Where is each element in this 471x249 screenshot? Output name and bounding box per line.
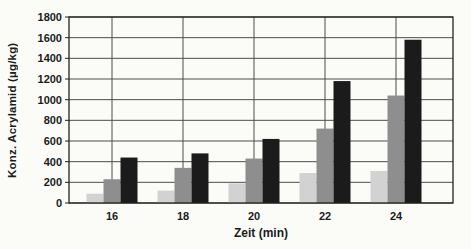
bar-chart-plot: 0200400600800100012001400160018001618202… <box>0 0 471 249</box>
y-tick-label: 0 <box>56 197 62 209</box>
y-tick-label: 200 <box>44 176 62 188</box>
x-tick-label: 18 <box>177 210 189 222</box>
bar-light-gray-bars <box>300 173 317 203</box>
y-tick-label: 1400 <box>38 52 62 64</box>
bar-black-bars <box>263 139 280 203</box>
y-tick-label: 800 <box>44 114 62 126</box>
bar-black-bars <box>334 81 351 203</box>
bar-light-gray-bars <box>229 183 246 203</box>
y-tick-label: 600 <box>44 135 62 147</box>
y-tick-label: 400 <box>44 156 62 168</box>
x-tick-label: 24 <box>390 210 403 222</box>
chart-figure: Konz. Acrylamid (µg/kg) 0200400600800100… <box>0 0 471 249</box>
bar-black-bars <box>405 40 422 203</box>
bar-medium-gray-bars <box>104 179 121 203</box>
y-tick-label: 1200 <box>38 73 62 85</box>
bar-black-bars <box>192 153 209 203</box>
bar-medium-gray-bars <box>175 168 192 203</box>
bar-light-gray-bars <box>371 171 388 203</box>
bar-medium-gray-bars <box>317 129 334 203</box>
bar-light-gray-bars <box>158 191 175 203</box>
bar-medium-gray-bars <box>246 159 263 203</box>
x-tick-label: 22 <box>319 210 331 222</box>
x-axis-title: Zeit (min) <box>69 226 453 240</box>
y-tick-label: 1000 <box>38 94 62 106</box>
bar-light-gray-bars <box>87 194 104 203</box>
y-tick-label: 1600 <box>38 32 62 44</box>
bar-black-bars <box>121 158 138 203</box>
x-tick-label: 20 <box>248 210 260 222</box>
x-tick-label: 16 <box>106 210 118 222</box>
bar-medium-gray-bars <box>388 96 405 203</box>
y-tick-label: 1800 <box>38 11 62 23</box>
